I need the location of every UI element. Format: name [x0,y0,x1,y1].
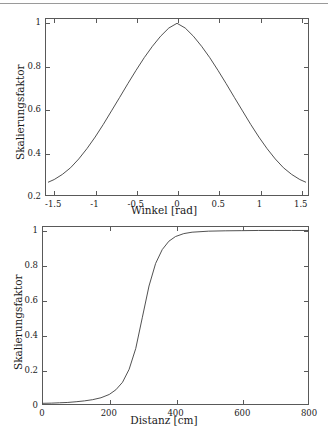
x-tick [243,400,244,404]
y-tick [46,23,50,24]
y-axis-label-winkel: Skalierungsfaktor [14,65,26,160]
figure-page: -1.5-1-0.500.511.5 0.20.40.60.81 Winkel … [0,0,328,439]
x-tick-top [110,227,111,231]
y-tick [46,67,50,68]
curve-winkel [46,19,308,195]
x-tick [96,191,97,195]
y-tick-label: 0 [18,400,38,410]
y-tick-right [304,266,308,267]
chart-distanz: 0200400600800 00.20.40.60.81 Distanz [cm… [0,218,328,439]
y-tick-right [304,110,308,111]
x-tick-top [54,19,55,23]
y-tick-right [304,67,308,68]
plot-area-distanz [42,226,309,405]
y-tick [43,336,47,337]
x-tick [261,191,262,195]
y-tick [46,110,50,111]
x-tick [54,191,55,195]
x-tick-top [261,19,262,23]
y-tick [46,154,50,155]
page-top-rule [0,3,328,4]
y-tick-label: 0.8 [18,260,38,270]
y-tick [43,266,47,267]
x-tick-top [177,227,178,231]
plot-area-winkel [45,18,309,196]
x-axis-label-distanz: Distanz [cm] [0,414,328,426]
y-tick [43,371,47,372]
y-tick-label: 0.2 [21,191,41,201]
x-tick-top [219,19,220,23]
x-tick [302,191,303,195]
y-tick-right [304,23,308,24]
x-tick [177,400,178,404]
y-tick-label: 1 [21,17,41,27]
x-tick [178,191,179,195]
y-tick-right [304,371,308,372]
y-tick-right [304,301,308,302]
chart-winkel: -1.5-1-0.500.511.5 0.20.40.60.81 Winkel … [0,10,328,215]
x-tick-top [243,227,244,231]
y-tick-right [304,336,308,337]
x-tick-top [137,19,138,23]
x-tick-top [302,19,303,23]
y-tick-right [304,231,308,232]
x-tick [219,191,220,195]
y-tick-label: 1 [18,225,38,235]
curve-distanz [43,227,308,404]
x-tick-top [96,19,97,23]
x-axis-label-winkel: Winkel [rad] [0,204,328,216]
x-tick [137,191,138,195]
y-axis-label-distanz: Skalierungsfaktor [12,275,24,370]
x-tick-top [178,19,179,23]
y-tick [43,231,47,232]
y-tick [43,301,47,302]
x-tick [110,400,111,404]
y-tick-right [304,154,308,155]
